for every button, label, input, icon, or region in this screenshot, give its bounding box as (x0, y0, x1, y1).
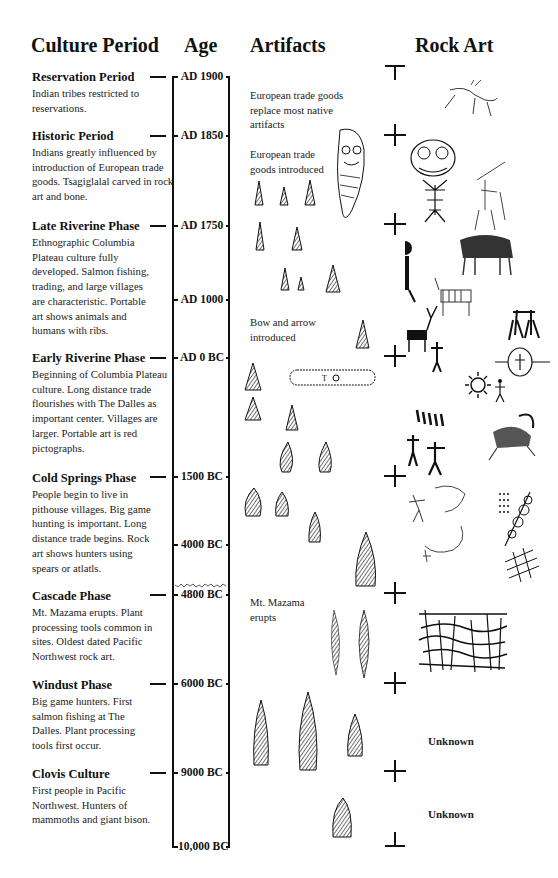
header-rock-art: Rock Art (415, 34, 493, 57)
connector-dash (150, 135, 166, 137)
inverted-tee-marker-icon (383, 826, 407, 850)
period-windust: Windust Phase Big game hunters. First sa… (32, 678, 184, 753)
age-label: AD 1900 (178, 70, 226, 83)
period-early-riverine: Early Riverine Phase Beginning of Columb… (32, 351, 184, 455)
connector-dash (150, 476, 166, 478)
timeline-bar-right (228, 76, 230, 848)
period-clovis: Clovis Culture First people in Pacific N… (32, 767, 184, 827)
connector-dash (150, 683, 166, 685)
rock-art-unknown-label: Unknown (428, 808, 474, 820)
period-description: Big game hunters. First salmon fishing a… (32, 694, 144, 753)
age-label: AD 0 BC (178, 351, 226, 364)
period-title: Windust Phase (32, 678, 184, 693)
rock-art-unknown-label: Unknown (428, 735, 474, 747)
period-title: Cold Springs Phase (32, 471, 184, 486)
tee-marker-icon (383, 64, 407, 88)
age-label: AD 1850 (178, 129, 226, 142)
rock-art-drawings-icon (405, 80, 555, 680)
period-title: Clovis Culture (32, 767, 184, 782)
cross-marker-icon (383, 581, 407, 605)
age-label: 6000 BC (178, 677, 226, 690)
header-artifacts: Artifacts (250, 34, 326, 57)
period-description: People begin to live in pithouse village… (32, 487, 152, 575)
period-description: Indian tribes restricted to reservations… (32, 86, 142, 115)
period-cascade: Cascade Phase Mt. Mazama erupts. Plant p… (32, 589, 184, 664)
cross-marker-icon (383, 759, 407, 783)
cross-marker-icon (383, 671, 407, 695)
timeline-bar-left (172, 76, 174, 848)
age-label: AD 1000 (178, 293, 226, 306)
cross-marker-icon (383, 212, 407, 236)
connector-dash (150, 357, 166, 359)
age-label: AD 1750 (178, 219, 226, 232)
header-culture-period: Culture Period (31, 34, 159, 57)
period-description: Indians greatly influenced by introducti… (32, 145, 184, 204)
cross-marker-icon (383, 123, 407, 147)
age-label: 10,000 BC (178, 840, 226, 853)
connector-dash (150, 76, 166, 78)
age-label: 4000 BC (178, 538, 226, 551)
period-description: Beginning of Columbia Plateau culture. L… (32, 367, 184, 455)
svg-text:T: T (322, 374, 327, 383)
age-label: 1500 BC (178, 470, 226, 483)
cross-marker-icon (383, 344, 407, 368)
header-age: Age (184, 34, 217, 57)
connector-dash (150, 225, 166, 227)
period-late-riverine: Late Riverine Phase Ethnographic Columbi… (32, 219, 184, 338)
connector-dash (150, 594, 166, 596)
projectile-points-icon: T (240, 120, 385, 850)
period-historic: Historic Period Indians greatly influenc… (32, 129, 184, 204)
period-description: Ethnographic Columbia Plateau culture fu… (32, 235, 150, 338)
age-label: 9000 BC (178, 766, 226, 779)
period-title: Cascade Phase (32, 589, 184, 604)
period-description: Mt. Mazama erupts. Plant processing tool… (32, 605, 157, 664)
age-label: 4800 BC (178, 588, 226, 601)
period-description: First people in Pacific Northwest. Hunte… (32, 783, 157, 827)
connector-dash (150, 772, 166, 774)
period-cold-springs: Cold Springs Phase People begin to live … (32, 471, 184, 575)
cross-marker-icon (383, 464, 407, 488)
